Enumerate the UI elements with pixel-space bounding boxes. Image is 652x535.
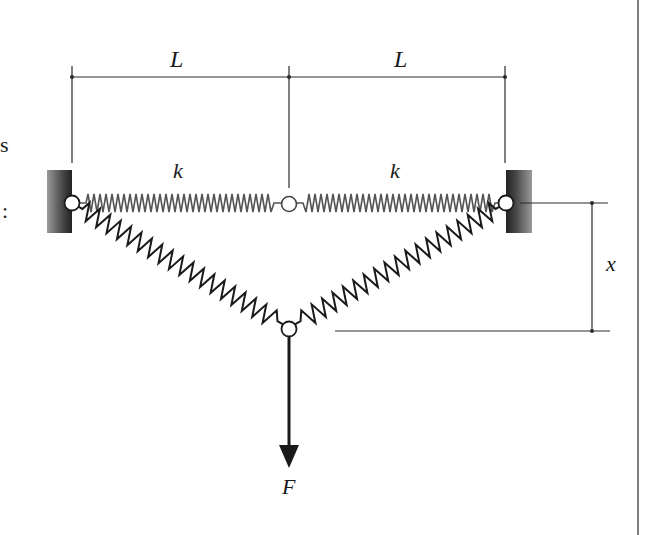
lower-left-spring — [68, 195, 293, 335]
force-label: F — [282, 476, 295, 498]
length-label-right: L — [394, 47, 407, 71]
right-pin — [499, 196, 514, 211]
spring-truss-diagram: s : — [0, 0, 652, 535]
force-arrow — [279, 336, 299, 468]
deflection-dimension — [335, 201, 610, 333]
diagram-canvas — [0, 0, 652, 535]
length-dimension — [70, 66, 507, 188]
loaded-pin — [282, 322, 297, 337]
left-pin — [65, 196, 80, 211]
middle-pin-undeformed — [282, 197, 297, 212]
stiffness-label-right: k — [390, 160, 400, 182]
upper-right-spring — [297, 194, 498, 212]
length-label-left: L — [170, 47, 183, 71]
upper-left-spring — [80, 194, 281, 212]
deflection-label: x — [606, 253, 616, 275]
lower-right-spring — [286, 195, 511, 335]
stiffness-label-left: k — [173, 160, 183, 182]
